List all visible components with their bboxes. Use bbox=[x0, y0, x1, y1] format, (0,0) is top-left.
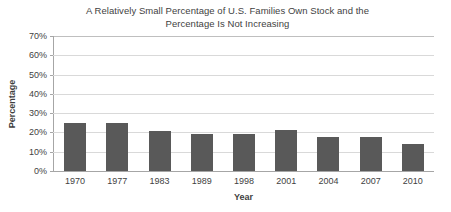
chart-title-line-1: A Relatively Small Percentage of U.S. Fa… bbox=[40, 4, 415, 17]
y-axis-tick-labels: 70%60%50%40%30%20%10%0% bbox=[18, 36, 50, 172]
bar-slot bbox=[96, 36, 138, 171]
bar bbox=[191, 134, 213, 171]
y-axis-tick-mark bbox=[50, 152, 53, 153]
x-axis-tick-labels: 197019771983198919982001200420072010 bbox=[54, 176, 434, 186]
x-axis-tick-label: 2010 bbox=[392, 176, 434, 186]
bar-slot bbox=[350, 36, 392, 171]
bar bbox=[402, 144, 424, 171]
bar-slot bbox=[138, 36, 180, 171]
x-axis-tick-label: 1977 bbox=[96, 176, 138, 186]
y-axis-tick-mark bbox=[50, 171, 53, 172]
y-axis-tick-mark bbox=[50, 36, 53, 37]
chart-title: A Relatively Small Percentage of U.S. Fa… bbox=[40, 4, 415, 30]
y-axis-tick-mark bbox=[50, 94, 53, 95]
bar bbox=[275, 130, 297, 171]
plot-area bbox=[53, 36, 434, 172]
bar-slot bbox=[392, 36, 434, 171]
y-axis-tick-mark bbox=[50, 55, 53, 56]
bar-slot bbox=[307, 36, 349, 171]
bar-slot bbox=[265, 36, 307, 171]
x-axis-tick-label: 1998 bbox=[223, 176, 265, 186]
bar-series bbox=[54, 36, 434, 171]
bar bbox=[360, 137, 382, 171]
chart-title-line-2: Percentage Is Not Increasing bbox=[40, 17, 415, 30]
x-axis-tick-label: 1983 bbox=[138, 176, 180, 186]
x-axis-tick-label: 1970 bbox=[54, 176, 96, 186]
y-axis-tick-label: 40% bbox=[29, 89, 47, 99]
y-axis-tick-mark bbox=[50, 132, 53, 133]
bar bbox=[233, 134, 255, 171]
y-axis-tick-label: 0% bbox=[34, 166, 47, 176]
y-axis-tick-label: 70% bbox=[29, 31, 47, 41]
x-axis-tick-label: 2004 bbox=[307, 176, 349, 186]
y-axis-label: Percentage bbox=[7, 79, 17, 128]
x-axis-tick-label: 2007 bbox=[350, 176, 392, 186]
y-axis-tick-mark bbox=[50, 113, 53, 114]
y-axis-tick-label: 20% bbox=[29, 127, 47, 137]
bar bbox=[149, 131, 171, 171]
x-axis-tick-label: 1989 bbox=[181, 176, 223, 186]
bar-chart-figure: A Relatively Small Percentage of U.S. Fa… bbox=[0, 0, 451, 212]
y-axis-tick-label: 10% bbox=[29, 147, 47, 157]
bar bbox=[106, 123, 128, 171]
x-axis-tick-label: 2001 bbox=[265, 176, 307, 186]
bar bbox=[317, 137, 339, 171]
y-axis-tick-mark bbox=[50, 75, 53, 76]
y-axis-tick-label: 60% bbox=[29, 50, 47, 60]
x-axis-label: Year bbox=[53, 192, 434, 202]
bar bbox=[64, 123, 86, 171]
y-axis-tick-label: 30% bbox=[29, 108, 47, 118]
bar-slot bbox=[181, 36, 223, 171]
bar-slot bbox=[223, 36, 265, 171]
x-axis-line bbox=[53, 171, 434, 172]
y-axis-tick-label: 50% bbox=[29, 70, 47, 80]
bar-slot bbox=[54, 36, 96, 171]
